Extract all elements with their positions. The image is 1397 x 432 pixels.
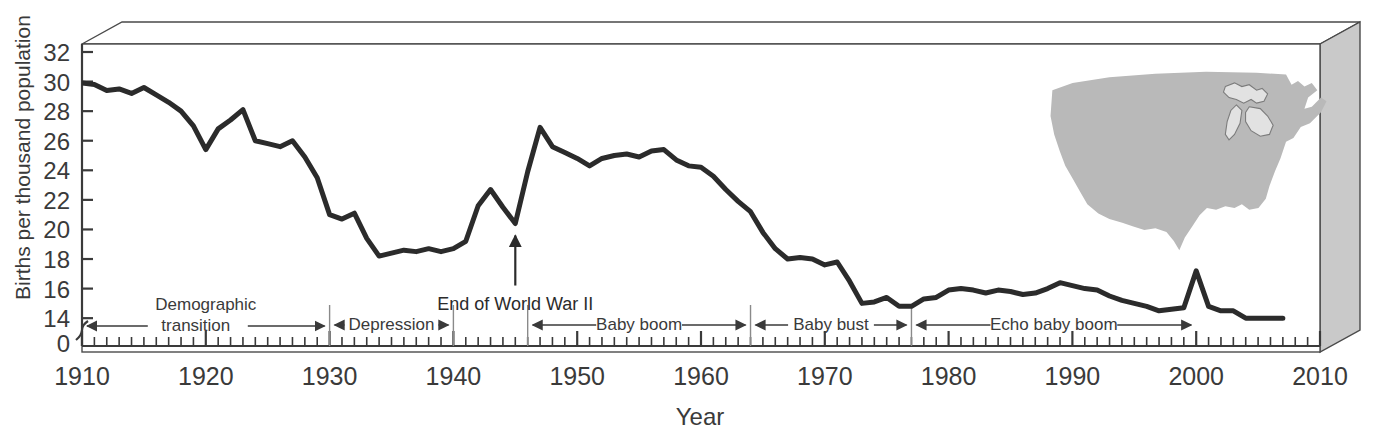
x-axis-tick-label: 1950 (549, 362, 605, 390)
y-axis-tick-label: 24 (43, 157, 70, 184)
y-axis-tick-label: 16 (43, 276, 70, 303)
y-axis-tick-label: 28 (43, 98, 70, 125)
x-axis-tick-label: 1910 (54, 362, 110, 390)
era-label-line2: transition (161, 316, 230, 335)
birth-rate-line-chart: 1910192019301940195019601970198019902000… (0, 0, 1397, 432)
x-axis-tick-label: 1990 (1045, 362, 1101, 390)
y-axis-title: Births per thousand population (11, 15, 34, 300)
era-label: Echo baby boom (990, 315, 1118, 334)
era-label: Baby boom (596, 315, 682, 334)
era-label: Baby bust (793, 315, 869, 334)
x-axis-tick-label: 2010 (1292, 362, 1348, 390)
x-axis-title: Year (676, 403, 725, 430)
x-axis-tick-label: 1920 (178, 362, 234, 390)
x-axis-tick-label: 1940 (426, 362, 482, 390)
x-axis-tick-label: 1960 (673, 362, 729, 390)
y-axis-tick-label: 26 (43, 128, 70, 155)
y-axis-tick-label: 18 (43, 246, 70, 273)
frame-right-face (1320, 22, 1360, 352)
y-axis-tick-label: 0 (57, 330, 70, 357)
y-axis-tick-label: 20 (43, 216, 70, 243)
x-axis-tick-label: 1930 (302, 362, 358, 390)
y-axis-tick-label: 30 (43, 69, 70, 96)
y-axis-tick-label: 14 (43, 305, 70, 332)
era-label: Depression (349, 315, 435, 334)
era-label-line1: Demographic (155, 295, 257, 314)
x-axis-tick-label: 1980 (921, 362, 977, 390)
y-axis-tick-label: 22 (43, 187, 70, 214)
x-axis-tick-label: 2000 (1168, 362, 1224, 390)
chart-figure: 1910192019301940195019601970198019902000… (0, 0, 1397, 432)
wwii-annotation-label: End of World War II (437, 294, 593, 314)
y-axis-tick-label: 32 (43, 39, 70, 66)
frame-top-face (82, 22, 1360, 44)
x-axis-tick-label: 1970 (797, 362, 853, 390)
